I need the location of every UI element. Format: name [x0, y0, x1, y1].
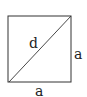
right-side-label: a	[74, 46, 82, 62]
diagonal-line	[9, 16, 71, 82]
bottom-side-label: a	[35, 83, 43, 97]
square-diagram: d a a	[0, 0, 87, 97]
diagonal-label: d	[29, 35, 38, 51]
